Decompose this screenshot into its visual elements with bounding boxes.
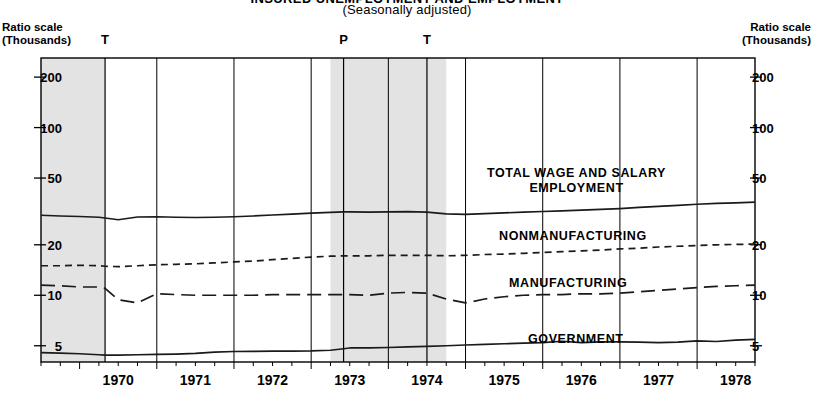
- recession-band-0: [41, 58, 105, 362]
- chart-root: INSURED UNEMPLOYMENT AND EMPLOYMENT (Sea…: [0, 0, 814, 400]
- y-tick-label-right-100: 100: [752, 120, 774, 135]
- y-tick-label-left-10: 10: [48, 288, 62, 303]
- x-tick-label-1975: 1975: [489, 372, 520, 388]
- x-tick-label-1971: 1971: [180, 372, 211, 388]
- y-tick-label-right-20: 20: [752, 237, 766, 252]
- series-label-line1: GOVERNMENT: [528, 332, 624, 347]
- y-tick-label-right-5: 5: [752, 338, 759, 353]
- plot-area: [0, 0, 814, 400]
- y-tick-label-right-10: 10: [752, 288, 766, 303]
- y-tick-label-right-50: 50: [752, 171, 766, 186]
- y-tick-label-left-20: 20: [48, 237, 62, 252]
- x-tick-label-1973: 1973: [334, 372, 365, 388]
- x-tick-label-1976: 1976: [566, 372, 597, 388]
- y-tick-label-left-200: 200: [40, 70, 62, 85]
- y-tick-label-right-200: 200: [752, 70, 774, 85]
- series-label-manufacturing: MANUFACTURING: [509, 276, 627, 291]
- cycle-marker-p-1: P: [339, 32, 348, 47]
- y-tick-label-left-5: 5: [55, 338, 62, 353]
- x-tick-label-1978: 1978: [720, 372, 751, 388]
- series-label-line1: TOTAL WAGE AND SALARY: [487, 166, 666, 181]
- y-tick-label-left-100: 100: [40, 120, 62, 135]
- series-label-nonmanufacturing: NONMANUFACTURING: [499, 229, 647, 244]
- x-tick-label-1972: 1972: [257, 372, 288, 388]
- series-label-line2: EMPLOYMENT: [487, 181, 666, 196]
- series-label-government: GOVERNMENT: [528, 332, 624, 347]
- series-label-total: TOTAL WAGE AND SALARYEMPLOYMENT: [487, 166, 666, 196]
- series-label-line1: NONMANUFACTURING: [499, 229, 647, 244]
- cycle-marker-t-2: T: [423, 32, 431, 47]
- series-label-line1: MANUFACTURING: [509, 276, 627, 291]
- x-tick-label-1974: 1974: [411, 372, 442, 388]
- y-tick-label-left-50: 50: [48, 171, 62, 186]
- x-tick-label-1970: 1970: [103, 372, 134, 388]
- x-tick-label-1977: 1977: [643, 372, 674, 388]
- cycle-marker-t-0: T: [101, 32, 109, 47]
